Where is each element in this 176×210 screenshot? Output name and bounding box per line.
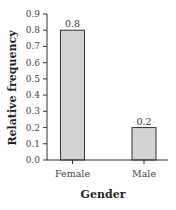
bar-chart: 0.00.10.20.30.40.50.60.70.80.9 0.80.2 Fe… <box>0 0 176 210</box>
y-tick-label: 0.5 <box>26 74 41 84</box>
y-tick-label: 0.2 <box>26 123 40 133</box>
y-tick-label: 0.1 <box>26 139 40 149</box>
y-tick-label: 0.7 <box>26 41 41 51</box>
y-tick-label: 0.9 <box>26 9 41 19</box>
y-axis-title: Relative frequency <box>6 30 19 146</box>
x-tick-label: Female <box>55 168 90 179</box>
x-axis-title: Gender <box>81 188 126 201</box>
bars: 0.80.2 <box>61 18 157 160</box>
bar-value-label: 0.8 <box>65 18 80 29</box>
x-axis: FemaleMale <box>47 160 168 179</box>
x-tick-label: Male <box>132 168 156 179</box>
bar-male <box>132 128 156 160</box>
y-tick-label: 0.0 <box>26 155 41 165</box>
bar-female <box>61 30 85 160</box>
y-tick-label: 0.6 <box>26 58 41 68</box>
y-tick-label: 0.8 <box>26 25 41 35</box>
y-tick-label: 0.4 <box>26 90 41 100</box>
y-tick-label: 0.3 <box>26 106 41 116</box>
y-axis: 0.00.10.20.30.40.50.60.70.80.9 <box>26 9 47 165</box>
bar-value-label: 0.2 <box>136 116 151 127</box>
